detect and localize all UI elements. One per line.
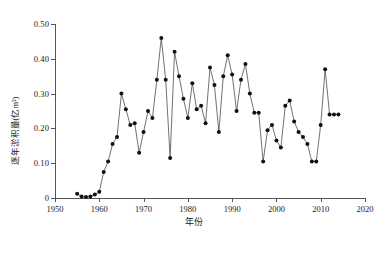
y-tick-label: 0.30 bbox=[34, 89, 49, 99]
data-point bbox=[274, 139, 278, 143]
data-point bbox=[279, 146, 283, 150]
data-point bbox=[84, 195, 88, 199]
x-tick-label: 1950 bbox=[47, 204, 64, 214]
data-point bbox=[124, 107, 128, 111]
x-tick-label: 2020 bbox=[357, 204, 374, 214]
data-point bbox=[146, 109, 150, 113]
x-tick-label: 2010 bbox=[312, 204, 329, 214]
data-point bbox=[305, 142, 309, 146]
x-tick-label: 2000 bbox=[268, 204, 285, 214]
data-point bbox=[266, 128, 270, 132]
data-point bbox=[133, 121, 137, 125]
data-point bbox=[115, 135, 119, 139]
x-tick-label: 1970 bbox=[135, 204, 152, 214]
data-point bbox=[332, 112, 336, 116]
data-point bbox=[252, 111, 256, 115]
x-axis-line bbox=[55, 198, 365, 199]
data-point bbox=[137, 151, 141, 155]
data-point bbox=[221, 74, 225, 78]
data-point bbox=[93, 193, 97, 197]
data-point bbox=[177, 74, 181, 78]
data-point bbox=[235, 109, 239, 113]
data-point bbox=[159, 36, 163, 40]
data-point bbox=[168, 156, 172, 160]
x-tick bbox=[144, 198, 145, 202]
data-point bbox=[195, 107, 199, 111]
data-point bbox=[292, 119, 296, 123]
data-point bbox=[102, 170, 106, 174]
data-point bbox=[212, 83, 216, 87]
data-point bbox=[155, 78, 159, 82]
data-point bbox=[288, 99, 292, 103]
data-point bbox=[190, 81, 194, 85]
data-point bbox=[323, 67, 327, 71]
data-series bbox=[55, 24, 365, 198]
series-line bbox=[77, 38, 338, 197]
figure: 逐年淤积量(亿m³) 00.100.200.300.400.50 1950196… bbox=[0, 0, 387, 262]
data-point bbox=[106, 159, 110, 163]
data-point bbox=[164, 78, 168, 82]
data-point bbox=[88, 195, 92, 199]
data-point bbox=[111, 142, 115, 146]
y-tick-label: 0.40 bbox=[34, 54, 49, 64]
data-point bbox=[204, 121, 208, 125]
data-point bbox=[261, 159, 265, 163]
data-point bbox=[142, 130, 146, 134]
data-point bbox=[243, 62, 247, 66]
data-point bbox=[75, 192, 79, 196]
y-axis-title: 逐年淤积量(亿m³) bbox=[8, 71, 20, 191]
data-point bbox=[301, 135, 305, 139]
x-tick bbox=[232, 198, 233, 202]
data-point bbox=[270, 123, 274, 127]
x-tick-label: 1990 bbox=[224, 204, 241, 214]
data-point bbox=[97, 190, 101, 194]
data-point bbox=[199, 104, 203, 108]
data-point bbox=[128, 123, 132, 127]
y-tick-label: 0.50 bbox=[34, 19, 49, 29]
data-point bbox=[80, 195, 84, 199]
data-point bbox=[297, 130, 301, 134]
x-tick bbox=[99, 198, 100, 202]
data-point bbox=[319, 123, 323, 127]
data-point bbox=[283, 104, 287, 108]
data-point bbox=[257, 111, 261, 115]
x-tick bbox=[365, 198, 366, 202]
data-point bbox=[119, 92, 123, 96]
data-point bbox=[310, 159, 314, 163]
x-tick-label: 1980 bbox=[179, 204, 196, 214]
data-point bbox=[239, 78, 243, 82]
data-point bbox=[150, 116, 154, 120]
x-tick bbox=[55, 198, 56, 202]
x-tick bbox=[276, 198, 277, 202]
data-point bbox=[230, 72, 234, 76]
data-point bbox=[328, 112, 332, 116]
x-tick bbox=[188, 198, 189, 202]
y-tick-label: 0.10 bbox=[34, 158, 49, 168]
data-point bbox=[336, 112, 340, 116]
data-point bbox=[248, 92, 252, 96]
data-point bbox=[181, 97, 185, 101]
y-tick-label: 0 bbox=[45, 193, 49, 203]
data-point bbox=[173, 50, 177, 54]
data-point bbox=[217, 130, 221, 134]
data-point bbox=[226, 53, 230, 57]
data-point bbox=[208, 66, 212, 70]
x-tick bbox=[321, 198, 322, 202]
data-point bbox=[314, 159, 318, 163]
x-axis-title: 年份 bbox=[0, 215, 387, 228]
data-point bbox=[186, 116, 190, 120]
x-tick-label: 1960 bbox=[91, 204, 108, 214]
y-tick-label: 0.20 bbox=[34, 123, 49, 133]
plot-area: 00.100.200.300.400.50 195019601970198019… bbox=[55, 24, 365, 198]
